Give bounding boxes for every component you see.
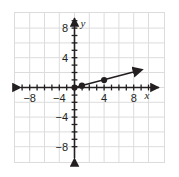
x-tick-label-neg8: −8 (23, 92, 36, 104)
data-point (71, 84, 77, 90)
data-point (79, 83, 85, 89)
y-tick-label-neg8: −8 (55, 141, 68, 153)
coordinate-plane-svg: −8 −4 4 8 8 4 −4 −8 x y (0, 0, 179, 177)
x-tick-label-4: 4 (101, 92, 107, 104)
x-tick-label-neg4: −4 (53, 92, 66, 104)
data-point (101, 77, 107, 83)
y-axis-label: y (80, 17, 86, 29)
x-axis-label: x (144, 89, 150, 101)
x-tick-label-8: 8 (131, 92, 137, 104)
y-tick-label-neg4: −4 (55, 111, 68, 123)
coordinate-plane-figure: −8 −4 4 8 8 4 −4 −8 x y (0, 0, 179, 177)
y-tick-label-8: 8 (62, 22, 68, 34)
y-tick-label-4: 4 (62, 52, 68, 64)
